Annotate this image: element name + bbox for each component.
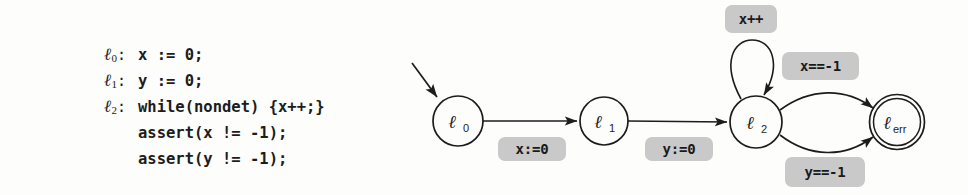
state-label-symbol: ℓ [448, 112, 456, 132]
state-circle-outer [870, 95, 925, 150]
state-label-symbol: ℓ [883, 113, 891, 133]
state-node-l2[interactable]: ℓ 2 [730, 96, 782, 148]
location-colon: : [117, 72, 126, 90]
code-line-location-label: ℓ0: [104, 42, 138, 71]
state-label-subscript: err [893, 123, 907, 135]
location-colon: : [117, 46, 126, 64]
edge-label-y-assign-0: y:=0 [645, 137, 713, 161]
initial-state-arrow [412, 63, 437, 97]
edge-l2-to-lerr-upper [780, 93, 873, 110]
edge-l2-self-loop [731, 40, 773, 99]
state-circle [433, 96, 483, 146]
state-circle [580, 97, 628, 145]
state-label-subscript: 1 [609, 122, 615, 134]
location-colon: : [117, 98, 126, 116]
code-line-text: assert(x != -1); [138, 120, 287, 146]
state-label-symbol: ℓ [746, 113, 754, 133]
edge-label-x-eq-neg1: x==-1 [782, 52, 859, 80]
code-line-location-label: ℓ2: [104, 94, 138, 123]
edge-label-x-assign-0: x:=0 [498, 137, 566, 161]
automaton-svg: ℓ 0 ℓ 1 ℓ 2 ℓ err [400, 0, 968, 195]
code-line-location-label: ℓ1: [104, 68, 138, 97]
state-node-lerr[interactable]: ℓ err [870, 95, 925, 150]
state-node-l1[interactable]: ℓ 1 [580, 97, 628, 145]
code-line-text: assert(y != -1); [138, 146, 287, 172]
state-label-subscript: 0 [463, 122, 469, 134]
code-line-text: while(nondet) {x++;} [138, 94, 325, 120]
edge-l1-to-l2 [628, 121, 727, 122]
figure-root: ℓ0:x := 0; ℓ1:y := 0; ℓ2:while(nondet) {… [0, 0, 968, 195]
code-line-text: x := 0; [138, 42, 203, 68]
control-flow-automaton: ℓ 0 ℓ 1 ℓ 2 ℓ err x: [400, 0, 968, 195]
state-node-l0[interactable]: ℓ 0 [433, 96, 483, 146]
edge-label-x-incr: x++ [725, 5, 777, 33]
edge-label-y-eq-neg1: y==-1 [785, 157, 865, 187]
state-label-subscript: 2 [761, 123, 767, 135]
state-label-symbol: ℓ [594, 112, 602, 132]
edge-l2-to-lerr-lower [780, 135, 873, 153]
code-line: ℓ0:x := 0; [48, 16, 378, 42]
program-code-listing: ℓ0:x := 0; ℓ1:y := 0; ℓ2:while(nondet) {… [48, 16, 378, 146]
code-line-text: y := 0; [138, 68, 203, 94]
state-circle [730, 96, 782, 148]
